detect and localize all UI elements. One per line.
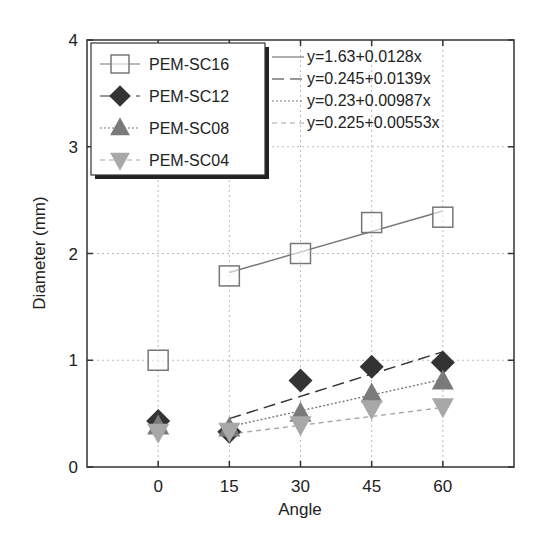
- square-marker: [362, 213, 382, 233]
- fit-equation-label: y=0.245+0.0139x: [307, 70, 431, 87]
- x-tick-label: 0: [153, 477, 162, 496]
- square-marker: [219, 266, 239, 286]
- y-tick-label: 0: [69, 458, 78, 477]
- triangle-up-marker: [361, 382, 383, 402]
- x-tick-label: 60: [433, 477, 452, 496]
- square-marker: [291, 244, 311, 264]
- y-tick-label: 3: [69, 138, 78, 157]
- square-marker: [111, 55, 129, 73]
- fit-line: [229, 211, 443, 272]
- fit-line: [229, 379, 443, 426]
- fit-line: [229, 408, 443, 435]
- diamond-marker: [360, 355, 384, 379]
- legend-label: PEM-SC12: [149, 88, 229, 105]
- fit-equation-label: y=1.63+0.0128x: [307, 48, 422, 65]
- legend-label: PEM-SC04: [149, 152, 229, 169]
- y-tick-label: 4: [69, 31, 78, 50]
- y-tick-label: 1: [69, 351, 78, 370]
- fit-line: [229, 352, 443, 419]
- y-tick-label: 2: [69, 245, 78, 264]
- legend-label: PEM-SC16: [149, 56, 229, 73]
- fit-equations: y=1.63+0.0128xy=0.245+0.0139xy=0.23+0.00…: [272, 48, 440, 131]
- triangle-up-marker: [432, 370, 454, 390]
- fit-lines: [229, 211, 443, 434]
- x-tick-label: 15: [220, 477, 239, 496]
- x-tick-label: 30: [291, 477, 310, 496]
- x-axis-label: Angle: [278, 500, 321, 519]
- x-tick-label: 45: [362, 477, 381, 496]
- fit-equation-label: y=0.23+0.00987x: [307, 92, 431, 109]
- legend-label: PEM-SC08: [149, 120, 229, 137]
- fit-equation-label: y=0.225+0.00553x: [307, 114, 440, 131]
- y-axis-label: Diameter (mm): [30, 196, 49, 309]
- diamond-marker: [289, 369, 313, 393]
- square-marker: [433, 207, 453, 227]
- square-marker: [148, 350, 168, 370]
- scatter-chart: 01530456001234 y=1.63+0.0128xy=0.245+0.0…: [0, 0, 542, 546]
- legend: PEM-SC16PEM-SC12PEM-SC08PEM-SC04: [91, 43, 269, 179]
